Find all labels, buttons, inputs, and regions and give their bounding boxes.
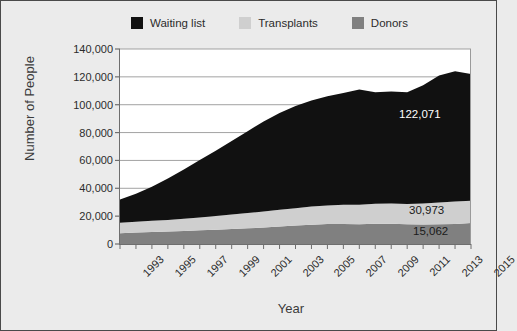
chart-legend: Waiting list Transplants Donors [131, 13, 471, 33]
x-axis-tick-label: 2003 [300, 253, 326, 279]
x-axis-tick-label: 1995 [172, 253, 198, 279]
x-axis-tick-label: 1997 [204, 253, 230, 279]
x-axis-tick-label: 1993 [140, 253, 166, 279]
x-axis-tick-label: 2013 [459, 253, 485, 279]
y-axis-tick-label: 140,000 [39, 43, 113, 55]
square-swatch-icon [352, 17, 364, 29]
y-axis-tick-label: 80,000 [39, 127, 113, 139]
legend-label: Donors [371, 17, 408, 29]
y-axis-tick-label: 40,000 [39, 182, 113, 194]
x-axis-tick-label: 1999 [236, 253, 262, 279]
area-series-waiting-list [120, 71, 471, 222]
transplants-value-label: 30,973 [409, 204, 444, 216]
legend-label: Waiting list [150, 17, 205, 29]
y-axis-tick-label: 0 [39, 238, 113, 250]
waiting-list-value-label: 122,071 [399, 108, 441, 120]
plot-area: 122,071 30,973 15,062 [119, 49, 471, 245]
x-axis-tick-label: 2009 [395, 253, 421, 279]
donors-value-label: 15,062 [413, 225, 448, 237]
square-swatch-icon [131, 17, 143, 29]
x-axis-tick-label: 2007 [364, 253, 390, 279]
x-axis-title: Year [241, 301, 341, 316]
x-axis-tick-labels: 1993199519971999200120032005200720092011… [119, 247, 470, 293]
x-axis-tick-label: 2011 [427, 253, 452, 278]
legend-item-donors[interactable]: Donors [352, 17, 408, 29]
x-axis-tick-label: 2015 [491, 253, 517, 279]
square-swatch-icon [239, 17, 251, 29]
legend-label: Transplants [258, 17, 318, 29]
y-axis-tick-labels: 020,00040,00060,00080,000100,000120,0001… [35, 49, 113, 244]
y-axis-tick-label: 20,000 [39, 210, 113, 222]
x-axis-tick-label: 2001 [268, 253, 294, 279]
area-chart-svg [114, 49, 477, 250]
legend-item-transplants[interactable]: Transplants [239, 17, 318, 29]
y-axis-tick-label: 60,000 [39, 154, 113, 166]
y-axis-tick-label: 100,000 [39, 99, 113, 111]
x-axis-tick-label: 2005 [332, 253, 358, 279]
legend-item-waiting-list[interactable]: Waiting list [131, 17, 205, 29]
y-axis-tick-label: 120,000 [39, 71, 113, 83]
